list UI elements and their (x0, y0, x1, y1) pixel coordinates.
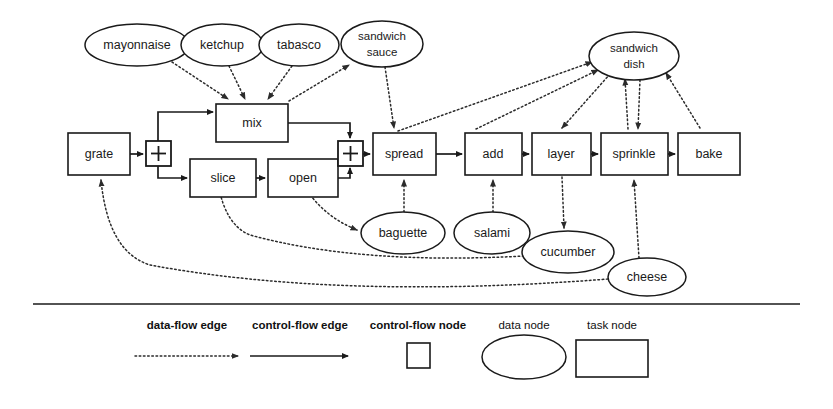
data-node-ketchup-label: ketchup (200, 38, 244, 52)
cf-edge-split-slice (158, 165, 187, 178)
workflow-diagram: grate mix slice open spread add (0, 0, 833, 409)
legend-symbol-ellipse-icon (482, 335, 566, 379)
task-node-grate-label: grate (85, 147, 114, 161)
task-node-sprinkle[interactable]: sprinkle (601, 133, 668, 175)
df-edge-spread-sandwich-dish (398, 62, 592, 131)
task-node-sprinkle-label: sprinkle (612, 147, 655, 161)
data-node-cucumber[interactable]: cucumber (522, 231, 614, 273)
df-edge-ketchup-mix (229, 66, 245, 99)
df-edge-mix-sandwich-sauce (289, 65, 349, 101)
task-node-layer[interactable]: layer (532, 133, 591, 175)
data-node-baguette-label: baguette (379, 226, 428, 240)
legend: data-flow edge control-flow edge control… (135, 319, 648, 379)
data-node-cheese-label: cheese (627, 270, 667, 284)
data-node-baguette[interactable]: baguette (361, 212, 445, 254)
task-node-bake-label: bake (695, 147, 722, 161)
data-node-cheese[interactable]: cheese (608, 258, 686, 296)
control-flow-node-split[interactable] (146, 141, 171, 166)
control-flow-node-join[interactable] (338, 141, 363, 166)
task-node-grate[interactable]: grate (68, 133, 130, 175)
data-node-sandwich-sauce[interactable]: sandwich sauce (341, 21, 423, 67)
cf-edge-mix-join (288, 123, 350, 138)
df-edge-mayonnaise-mix (172, 62, 228, 99)
df-edge-layer-cucumber (562, 177, 564, 228)
data-node-salami[interactable]: salami (454, 212, 530, 254)
df-edge-cheese-grate (101, 180, 608, 287)
data-node-sandwich-dish-label-line2: dish (623, 58, 644, 70)
legend-label-data-node: data node (498, 319, 549, 331)
df-edge-bake-sandwich-dish (666, 73, 700, 128)
data-node-salami-label: salami (474, 226, 510, 240)
legend-symbol-square-icon (407, 343, 430, 368)
task-node-spread[interactable]: spread (373, 133, 436, 175)
task-node-mix-label: mix (242, 116, 262, 130)
legend-label-data-flow-edge: data-flow edge (147, 319, 228, 331)
df-edge-sandwich-sauce-spread (385, 67, 394, 128)
task-node-slice[interactable]: slice (190, 159, 256, 197)
df-edge-cheese-sprinkle (634, 180, 639, 258)
data-node-sandwich-sauce-label-line1: sandwich (358, 30, 406, 42)
task-node-layer-label: layer (547, 147, 574, 161)
task-node-bake[interactable]: bake (678, 133, 740, 175)
data-node-ketchup[interactable]: ketchup (181, 24, 263, 66)
data-node-tabasco[interactable]: tabasco (259, 24, 339, 66)
task-node-slice-label: slice (210, 171, 235, 185)
task-node-mix[interactable]: mix (216, 104, 288, 142)
data-node-tabasco-label: tabasco (277, 38, 321, 52)
data-node-sandwich-sauce-label-line2: sauce (367, 46, 398, 58)
df-edge-sprinkle-sandwich-dish (625, 79, 628, 129)
data-node-sandwich-dish-label-line1: sandwich (610, 42, 658, 54)
cf-edge-split-mix (158, 112, 213, 141)
df-edge-sandwich-dish-layer (562, 74, 610, 128)
task-node-add[interactable]: add (465, 133, 522, 175)
legend-label-task-node: task node (587, 319, 637, 331)
df-edge-tabasco-mix (268, 66, 292, 99)
data-node-sandwich-dish[interactable]: sandwich dish (589, 32, 679, 80)
legend-label-control-flow-edge: control-flow edge (252, 319, 348, 331)
task-node-add-label: add (483, 147, 504, 161)
legend-label-control-flow-node: control-flow node (370, 319, 466, 331)
task-node-spread-label: spread (385, 147, 423, 161)
data-node-mayonnaise-label: mayonnaise (103, 38, 170, 52)
cf-edge-open-join (338, 168, 350, 178)
legend-symbol-rectangle-icon (576, 340, 648, 377)
df-edge-add-sandwich-dish (476, 70, 598, 129)
data-node-mayonnaise[interactable]: mayonnaise (85, 24, 189, 66)
task-node-open[interactable]: open (268, 159, 338, 197)
diagram-canvas: grate mix slice open spread add (0, 0, 833, 409)
df-edge-sandwich-dish-sprinkle (638, 80, 640, 129)
task-node-open-label: open (289, 171, 317, 185)
data-node-cucumber-label: cucumber (541, 245, 596, 259)
